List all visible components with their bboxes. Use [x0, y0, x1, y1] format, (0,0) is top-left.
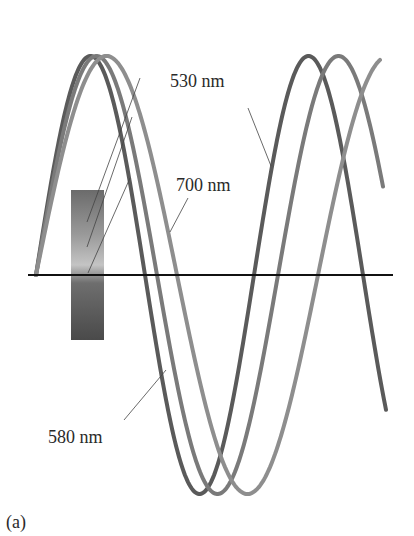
leader-line-700-label	[170, 198, 188, 232]
panel-label: (a)	[6, 512, 26, 533]
leader-line-580-label	[124, 370, 166, 420]
leader-line-530-label	[248, 108, 271, 166]
label-580-nm: 580 nm	[48, 428, 103, 446]
leader-line-580	[87, 117, 132, 247]
wavelength-diagram: 530 nm 700 nm 580 nm (a)	[0, 0, 414, 536]
label-530-nm: 530 nm	[170, 72, 225, 90]
leader-lines	[87, 78, 271, 420]
label-700-nm: 700 nm	[176, 176, 231, 194]
